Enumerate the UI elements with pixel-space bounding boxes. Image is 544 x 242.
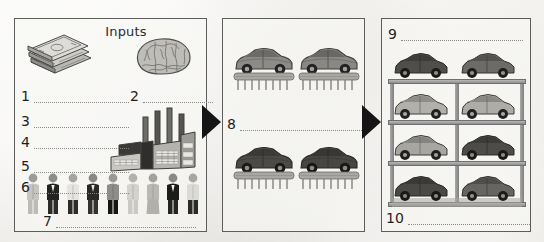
car-on-assembly-line-icon	[298, 45, 360, 93]
rack-post	[520, 79, 524, 205]
blank-7-line[interactable]	[56, 219, 196, 228]
blank-10-line[interactable]	[408, 216, 530, 225]
blank-8-number: 8	[227, 117, 236, 131]
blank-3-line[interactable]	[34, 119, 129, 128]
blank-6-number: 6	[21, 180, 30, 194]
rack-car	[392, 91, 450, 120]
blank-9-number: 9	[388, 27, 397, 41]
arrow-production-to-output	[362, 105, 381, 139]
rack-car	[459, 50, 517, 79]
blank-4[interactable]: 4	[21, 135, 129, 149]
rack-car	[459, 91, 517, 120]
blank-9-line[interactable]	[401, 32, 523, 41]
worksheet-diagram: Inputs	[0, 0, 544, 242]
blank-2[interactable]: 2	[130, 89, 213, 103]
car-on-assembly-line-icon	[298, 144, 360, 192]
rack-shelf	[388, 120, 526, 125]
car-on-assembly-line-icon	[233, 45, 295, 93]
blank-10[interactable]: 10	[386, 211, 530, 225]
blank-6-line[interactable]	[34, 185, 129, 194]
rack-car	[392, 173, 450, 202]
car-storage-rack-icon	[386, 45, 528, 207]
blank-8-line[interactable]	[240, 122, 362, 131]
person-figure	[165, 173, 181, 215]
brain-icon	[133, 36, 193, 78]
blank-9[interactable]: 9	[388, 27, 523, 41]
blank-4-line[interactable]	[34, 140, 129, 149]
blank-6[interactable]: 6	[21, 180, 129, 194]
blank-5-line[interactable]	[34, 164, 129, 173]
blank-3-number: 3	[21, 114, 30, 128]
blank-1-number: 1	[21, 89, 30, 103]
rack-car	[459, 173, 517, 202]
blank-3[interactable]: 3	[21, 114, 129, 128]
blank-7-number: 7	[43, 214, 52, 228]
blank-1-line[interactable]	[34, 94, 129, 103]
rack-shelf	[388, 79, 526, 84]
output-storage-panel: 9	[381, 18, 531, 232]
blank-2-number: 2	[130, 89, 139, 103]
person-figure	[145, 173, 161, 215]
car-on-assembly-line-icon	[233, 144, 295, 192]
blank-1[interactable]: 1	[21, 89, 129, 103]
blank-7[interactable]: 7	[43, 214, 196, 228]
inputs-panel: Inputs	[14, 18, 207, 232]
person-figure	[185, 173, 201, 215]
blank-2-line[interactable]	[143, 94, 213, 103]
blank-8[interactable]: 8	[227, 117, 362, 131]
rack-shelf	[388, 161, 526, 166]
blank-5-number: 5	[21, 159, 30, 173]
rack-car	[392, 50, 450, 79]
rack-car	[392, 132, 450, 161]
blank-5[interactable]: 5	[21, 159, 129, 173]
production-panel: 8	[222, 18, 365, 232]
blank-10-number: 10	[386, 211, 404, 225]
blank-4-number: 4	[21, 135, 30, 149]
money-icon	[25, 32, 97, 77]
rack-car	[459, 132, 517, 161]
arrow-inputs-to-production	[202, 105, 221, 139]
